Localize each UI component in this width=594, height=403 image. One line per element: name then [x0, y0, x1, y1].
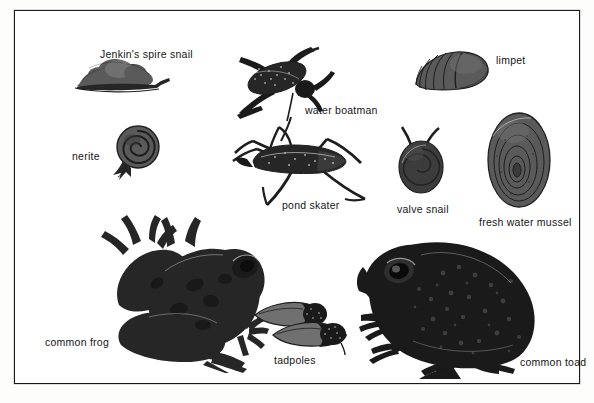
- pond-skater-drawing: [223, 113, 373, 213]
- fresh-water-mussel-drawing: [483, 110, 555, 210]
- common-frog-drawing: [99, 213, 269, 373]
- label-nerite: nerite: [72, 150, 100, 162]
- label-tadpoles: tadpoles: [274, 354, 316, 366]
- figure-fresh-water-mussel: [483, 110, 555, 210]
- illustration-plate: Jenkin's spire snail nerite: [14, 10, 580, 384]
- label-limpet: limpet: [496, 54, 526, 66]
- figure-limpet: [412, 48, 494, 96]
- figure-tadpoles: [253, 299, 363, 355]
- label-jenkins-spire-snail: Jenkin's spire snail: [100, 48, 193, 60]
- figure-nerite: [107, 123, 169, 183]
- label-common-frog: common frog: [45, 336, 109, 348]
- nerite-drawing: [107, 123, 169, 183]
- label-pond-skater: pond skater: [282, 199, 340, 211]
- common-toad-drawing: [351, 233, 541, 379]
- label-fresh-water-mussel: fresh water mussel: [479, 216, 572, 228]
- tadpoles-drawing: [253, 299, 363, 355]
- limpet-drawing: [412, 48, 494, 96]
- jenkins-spire-snail-drawing: [69, 55, 179, 95]
- valve-snail-drawing: [390, 123, 456, 201]
- figure-pond-skater: [223, 113, 373, 213]
- figure-common-frog: [99, 213, 269, 373]
- label-valve-snail: valve snail: [397, 203, 449, 215]
- figure-valve-snail: [390, 123, 456, 201]
- label-common-toad: common toad: [520, 356, 586, 368]
- figure-jenkins-spire-snail: [69, 55, 179, 95]
- figure-common-toad: [351, 233, 541, 379]
